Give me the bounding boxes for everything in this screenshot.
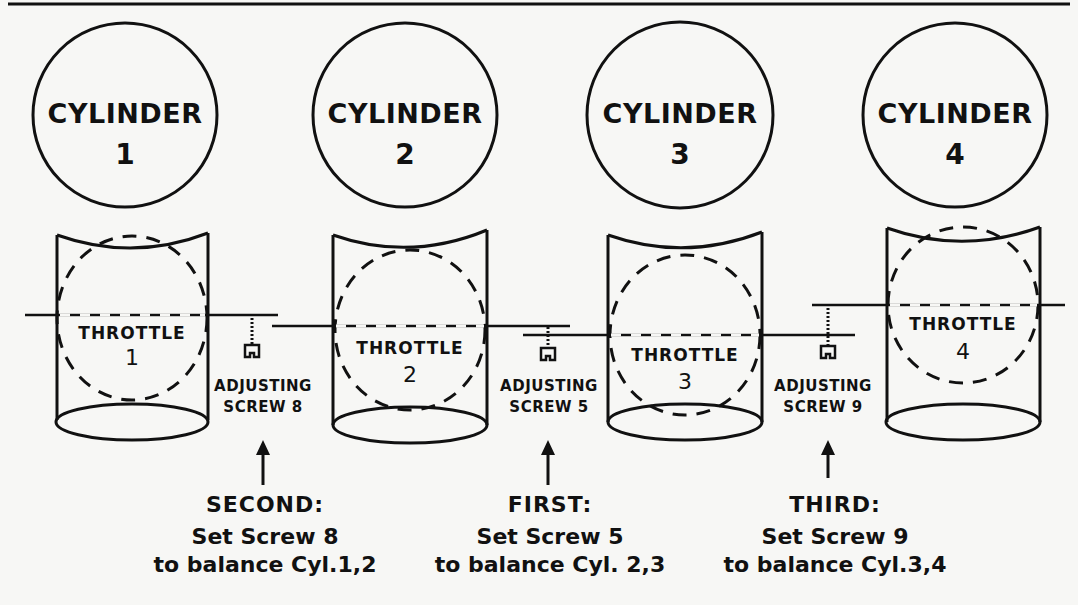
adjusting-screw-5-label: ADJUSTING SCREW 5 <box>493 376 605 418</box>
cylinder-1-number: 1 <box>35 138 215 171</box>
step-third-purpose: to balance Cyl.3,4 <box>705 551 965 579</box>
adjusting-screw-8-line2: SCREW 8 <box>208 397 318 418</box>
cylinder-4-label: CYLINDER <box>865 98 1045 129</box>
step-third-action: Set Screw 9 <box>705 523 965 551</box>
throttle-2-number: 2 <box>340 362 480 387</box>
adjusting-screw-5-line1: ADJUSTING <box>493 376 605 397</box>
cylinder-1-label: CYLINDER <box>35 98 215 129</box>
step-second: SECOND: Set Screw 8 to balance Cyl.1,2 <box>135 492 395 579</box>
throttle-2-label: THROTTLE <box>340 338 480 358</box>
cylinder-4-number: 4 <box>865 138 1045 171</box>
arrow-up-icon-8 <box>256 440 270 485</box>
step-first: FIRST: Set Screw 5 to balance Cyl. 2,3 <box>420 492 680 579</box>
step-first-order: FIRST: <box>420 492 680 517</box>
cylinder-3-label: CYLINDER <box>590 98 770 129</box>
cylinder-2-label: CYLINDER <box>315 98 495 129</box>
cylinder-2-number: 2 <box>315 138 495 171</box>
step-second-purpose: to balance Cyl.1,2 <box>135 551 395 579</box>
step-second-order: SECOND: <box>135 492 395 517</box>
step-second-action: Set Screw 8 <box>135 523 395 551</box>
screw-icon-9 <box>821 308 835 358</box>
screw-icon-5 <box>541 327 555 360</box>
adjusting-screw-9-line2: SCREW 9 <box>767 397 879 418</box>
arrow-up-icon-9 <box>821 440 835 478</box>
step-first-action: Set Screw 5 <box>420 523 680 551</box>
throttle-3-label: THROTTLE <box>615 345 755 365</box>
step-third-order: THIRD: <box>705 492 965 517</box>
step-first-purpose: to balance Cyl. 2,3 <box>420 551 680 579</box>
adjusting-screw-8-line1: ADJUSTING <box>208 376 318 397</box>
adjusting-screw-8-label: ADJUSTING SCREW 8 <box>208 376 318 418</box>
adjusting-screw-9-line1: ADJUSTING <box>767 376 879 397</box>
throttle-4-label: THROTTLE <box>893 314 1033 334</box>
throttle-1-number: 1 <box>62 345 202 370</box>
step-third: THIRD: Set Screw 9 to balance Cyl.3,4 <box>705 492 965 579</box>
arrow-up-icon-5 <box>541 440 555 485</box>
cylinder-3-number: 3 <box>590 138 770 171</box>
adjusting-screw-5-line2: SCREW 5 <box>493 397 605 418</box>
adjusting-screw-9-label: ADJUSTING SCREW 9 <box>767 376 879 418</box>
throttle-4-number: 4 <box>893 339 1033 364</box>
screw-icon-8 <box>245 318 259 357</box>
throttle-1-label: THROTTLE <box>62 323 202 343</box>
throttle-3-number: 3 <box>615 369 755 394</box>
